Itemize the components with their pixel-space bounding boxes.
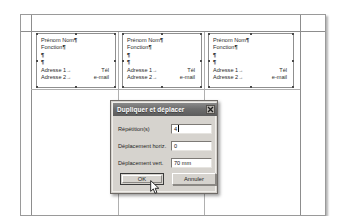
- label-card[interactable]: Prénom Nom¶ Fonction¶ ¶ ¶ Adresse 1→ Tél…: [36, 33, 116, 88]
- pilcrow-mark: ¶: [62, 44, 65, 50]
- pilcrow-mark: ¶: [246, 37, 249, 43]
- label-card[interactable]: Prénom Nom¶ Fonction¶ ¶ ¶ Adresse 1→ Tél…: [208, 33, 294, 88]
- selection-handle[interactable]: [292, 60, 294, 62]
- card-address-phone-row: Adresse 1→ Tél: [41, 67, 111, 74]
- pilcrow-mark: ¶: [160, 37, 163, 43]
- selection-handle[interactable]: [208, 60, 210, 62]
- dialog-body: Répétition(s) 4 Déplacement horiz. 0 Dép…: [113, 118, 215, 191]
- card-role-line: Fonction¶: [213, 44, 289, 51]
- card-empty-line: ¶: [127, 52, 197, 59]
- card-address-phone-row: Adresse 1→ Tél: [213, 67, 289, 74]
- selection-handle[interactable]: [122, 33, 124, 35]
- selection-handle[interactable]: [122, 60, 124, 62]
- card-phone: Tél: [101, 67, 111, 74]
- application-window: Prénom Nom¶ Fonction¶ ¶ ¶ Adresse 1→ Tél…: [0, 0, 343, 216]
- card-empty-line: ¶: [127, 59, 197, 66]
- vertical-offset-input[interactable]: 70 mm: [171, 158, 212, 168]
- card-content: Prénom Nom¶ Fonction¶ ¶ ¶ Adresse 1→ Tél…: [41, 37, 111, 85]
- selection-handle[interactable]: [161, 33, 163, 35]
- pilcrow-mark: ¶: [41, 59, 44, 65]
- selection-handle[interactable]: [208, 33, 210, 35]
- card-address-1: Adresse 1→: [127, 67, 157, 74]
- close-icon[interactable]: [206, 105, 215, 114]
- pilcrow-mark: ¶: [148, 44, 151, 50]
- card-address-email-row: Adresse 2→ e-mail: [41, 74, 111, 81]
- pilcrow-mark: ¶: [213, 59, 216, 65]
- selection-handle[interactable]: [200, 33, 202, 35]
- guide-row-separator: [31, 89, 300, 90]
- pilcrow-mark: ¶: [74, 37, 77, 43]
- label-card[interactable]: Prénom Nom¶ Fonction¶ ¶ ¶ Adresse 1→ Tél…: [122, 33, 202, 88]
- tab-arrow-icon: →: [238, 67, 243, 73]
- card-empty-line: ¶: [213, 52, 289, 59]
- guide-top-margin: [21, 31, 325, 32]
- pilcrow-mark: ¶: [213, 52, 216, 58]
- card-address-1: Adresse 1→: [41, 67, 71, 74]
- selection-handle[interactable]: [114, 60, 116, 62]
- ok-button-label: OK: [122, 175, 162, 183]
- field-vertical-offset-row: Déplacement vert. 70 mm: [118, 157, 216, 168]
- repetitions-input[interactable]: 4: [171, 124, 212, 134]
- selection-handle[interactable]: [75, 86, 77, 88]
- guide-left-margin: [31, 15, 32, 215]
- card-content: Prénom Nom¶ Fonction¶ ¶ ¶ Adresse 1→ Tél…: [213, 37, 289, 85]
- card-name-line: Prénom Nom¶: [127, 37, 197, 44]
- card-email: e-mail: [94, 74, 111, 81]
- pilcrow-mark: ¶: [234, 44, 237, 50]
- pilcrow-mark: ¶: [41, 52, 44, 58]
- selection-handle[interactable]: [75, 33, 77, 35]
- selection-handle[interactable]: [208, 86, 210, 88]
- tab-arrow-icon: →: [152, 67, 157, 73]
- field-horizontal-offset-row: Déplacement horiz. 0: [118, 140, 216, 151]
- card-address-2: Adresse 2→: [127, 74, 157, 81]
- selection-handle[interactable]: [200, 86, 202, 88]
- dialog-button-row: OK Annuler: [118, 173, 216, 186]
- card-address-phone-row: Adresse 1→ Tél: [127, 67, 197, 74]
- selection-handle[interactable]: [114, 33, 116, 35]
- selection-handle[interactable]: [36, 60, 38, 62]
- card-role-line: Fonction¶: [41, 44, 111, 51]
- tab-arrow-icon: →: [66, 67, 71, 73]
- text-caret: [178, 125, 179, 132]
- selection-handle[interactable]: [292, 33, 294, 35]
- card-email: e-mail: [272, 74, 289, 81]
- horizontal-offset-input[interactable]: 0: [171, 141, 212, 151]
- selection-handle[interactable]: [250, 33, 252, 35]
- card-empty-line: ¶: [41, 52, 111, 59]
- duplicate-and-move-dialog[interactable]: Dupliquer et déplacer Répétition(s) 4 Dé…: [110, 100, 218, 194]
- ok-button[interactable]: OK: [120, 173, 164, 185]
- card-email: e-mail: [180, 74, 197, 81]
- tab-arrow-icon: →: [238, 74, 243, 80]
- card-address-2: Adresse 2→: [213, 74, 243, 81]
- cancel-button[interactable]: Annuler: [172, 173, 216, 185]
- field-repetitions-label: Répétition(s): [118, 126, 171, 132]
- horizontal-offset-input-value: 0: [174, 142, 177, 150]
- card-name-line: Prénom Nom¶: [41, 37, 111, 44]
- field-vertical-offset-label: Déplacement vert.: [118, 160, 171, 166]
- selection-handle[interactable]: [250, 86, 252, 88]
- card-empty-line: ¶: [41, 59, 111, 66]
- card-address-email-row: Adresse 2→ e-mail: [127, 74, 197, 81]
- dialog-titlebar[interactable]: Dupliquer et déplacer: [113, 103, 217, 116]
- field-horizontal-offset-label: Déplacement horiz.: [118, 143, 171, 149]
- pilcrow-mark: ¶: [127, 52, 130, 58]
- vertical-offset-input-value: 70 mm: [174, 159, 191, 167]
- selection-handle[interactable]: [200, 60, 202, 62]
- selection-handle[interactable]: [292, 86, 294, 88]
- card-phone: Tél: [187, 67, 197, 74]
- field-repetitions-row: Répétition(s) 4: [118, 123, 216, 134]
- tab-arrow-icon: →: [66, 74, 71, 80]
- selection-handle[interactable]: [161, 86, 163, 88]
- card-role-line: Fonction¶: [127, 44, 197, 51]
- selection-handle[interactable]: [36, 33, 38, 35]
- card-address-2: Adresse 2→: [41, 74, 71, 81]
- selection-handle[interactable]: [122, 86, 124, 88]
- card-empty-line: ¶: [213, 59, 289, 66]
- card-address-email-row: Adresse 2→ e-mail: [213, 74, 289, 81]
- tab-arrow-icon: →: [152, 74, 157, 80]
- card-content: Prénom Nom¶ Fonction¶ ¶ ¶ Adresse 1→ Tél…: [127, 37, 197, 85]
- selection-handle[interactable]: [36, 86, 38, 88]
- card-address-1: Adresse 1→: [213, 67, 243, 74]
- card-phone: Tél: [279, 67, 289, 74]
- selection-handle[interactable]: [114, 86, 116, 88]
